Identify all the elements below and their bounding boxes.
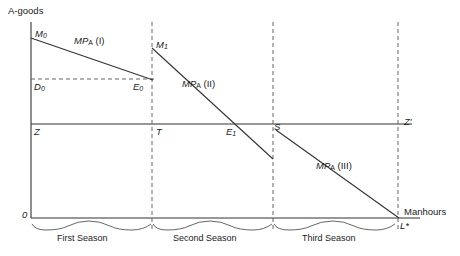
brace-second-season bbox=[153, 221, 272, 230]
point-label-e0: E0 bbox=[133, 82, 143, 92]
curve-label-mpa-2: MPA (II) bbox=[182, 79, 215, 89]
brace-first-season bbox=[32, 221, 151, 230]
y-axis-label: A-goods bbox=[8, 6, 43, 16]
curve-mpa-2 bbox=[152, 48, 273, 159]
point-label-m1: M1 bbox=[156, 40, 168, 50]
point-label-t: T bbox=[156, 127, 162, 137]
point-label-d0: D0 bbox=[34, 82, 45, 92]
origin-label: 0 bbox=[22, 210, 27, 220]
curve-label-mpa-1: MPA (I) bbox=[74, 36, 105, 46]
brace-third-season bbox=[274, 221, 395, 230]
curve-label-mpa-3: MPA (III) bbox=[316, 161, 352, 171]
season-label-second: Second Season bbox=[173, 234, 237, 243]
x-axis-label: Manhours bbox=[404, 207, 446, 217]
point-label-l-star: L* bbox=[400, 221, 409, 231]
season-label-third: Third Season bbox=[302, 234, 356, 243]
curve-mpa-3 bbox=[276, 130, 399, 218]
point-label-z-prime: Z′ bbox=[404, 117, 412, 127]
point-label-s: S bbox=[274, 122, 280, 132]
point-label-m0: M0 bbox=[35, 29, 47, 39]
season-label-first: First Season bbox=[57, 234, 108, 243]
point-label-z: Z bbox=[34, 127, 40, 137]
point-label-e1: E1 bbox=[226, 127, 236, 137]
